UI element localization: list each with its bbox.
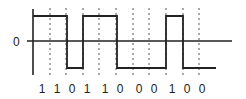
bit-label: 0 xyxy=(69,82,76,96)
bit-label: 0 xyxy=(199,82,206,96)
bit-label: 0 xyxy=(151,82,158,96)
bit-label: 1 xyxy=(84,82,91,96)
signal-waveform xyxy=(33,16,216,68)
bit-label: 1 xyxy=(54,82,61,96)
bit-label: 1 xyxy=(102,82,109,96)
bit-label: 0 xyxy=(136,82,143,96)
signal-diagram: 0 11011000100 xyxy=(0,0,246,99)
bit-label: 0 xyxy=(117,82,124,96)
bit-label: 0 xyxy=(184,82,191,96)
bit-boundary-lines xyxy=(50,8,199,76)
bit-labels: 11011000100 xyxy=(39,82,206,96)
bit-label: 1 xyxy=(169,82,176,96)
zero-label: 0 xyxy=(13,35,20,49)
bit-label: 1 xyxy=(39,82,46,96)
